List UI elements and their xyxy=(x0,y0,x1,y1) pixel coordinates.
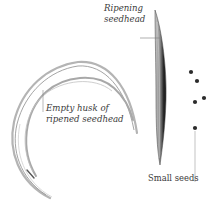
husk-label-line2: ripened seedhead xyxy=(46,114,124,125)
small-seeds-label: Small seeds xyxy=(148,173,199,184)
botanical-illustration: Ripening seedhead Empty husk of ripened … xyxy=(0,0,210,203)
small-seeds-drawing xyxy=(189,70,206,182)
husk-label-line1: Empty husk of xyxy=(46,103,124,114)
ripening-label-line2: seedhead xyxy=(104,14,145,25)
empty-husk-drawing xyxy=(12,62,137,198)
ripening-label-line1: Ripening xyxy=(104,3,145,14)
ripening-seedhead-drawing xyxy=(140,10,166,165)
empty-husk-label: Empty husk of ripened seedhead xyxy=(46,103,124,124)
ripening-seedhead-label: Ripening seedhead xyxy=(104,3,145,24)
